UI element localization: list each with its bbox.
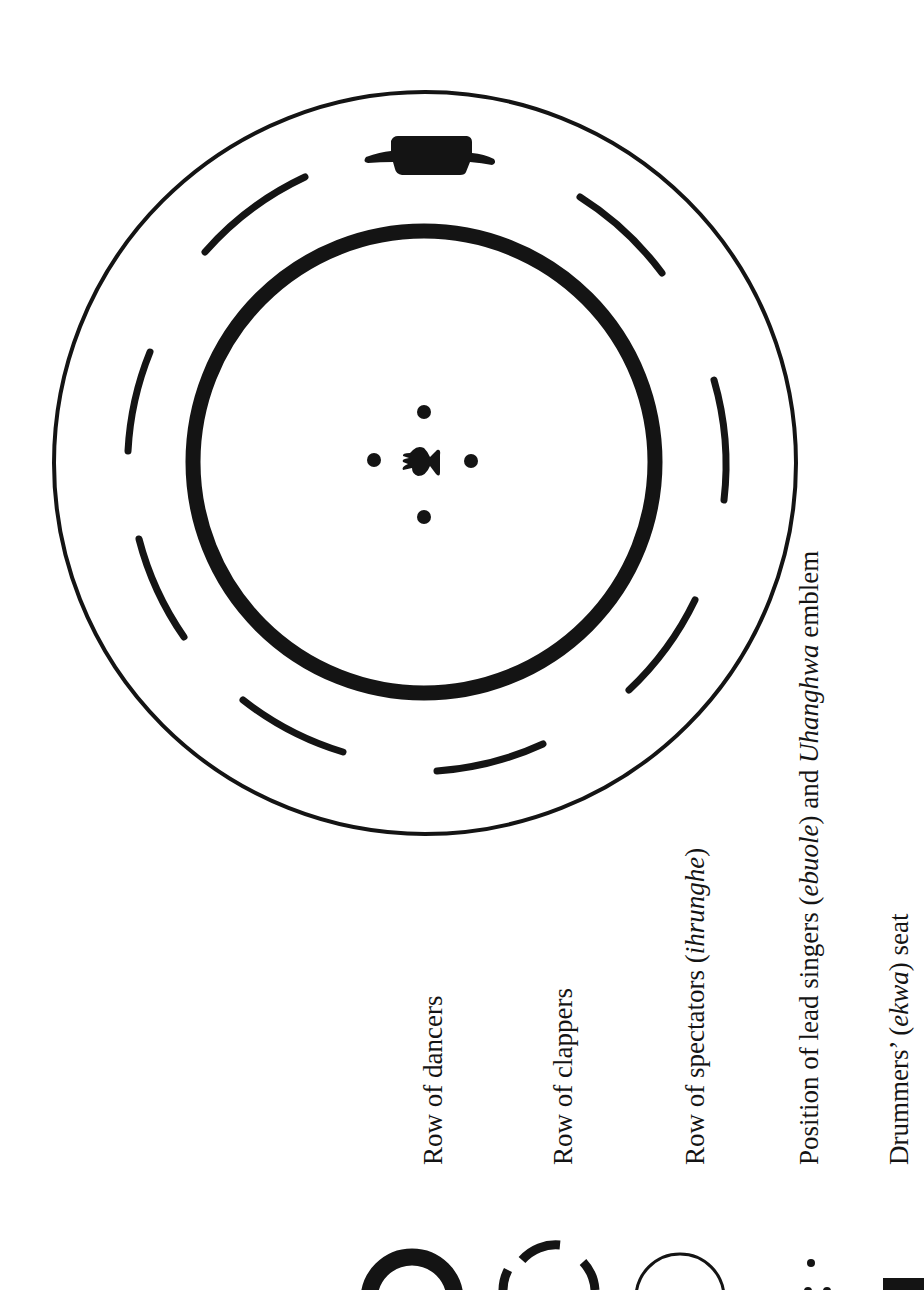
legend-dots-icon (804, 1259, 831, 1290)
legend-label-clappers: Row of clappers (548, 988, 578, 1165)
clapper-arc-top-left (205, 177, 305, 252)
clapper-arc-bottom-right (629, 600, 695, 690)
singer-dot-bottom (417, 510, 431, 524)
label-italic-term: ekwa (884, 971, 914, 1026)
uhanghwa-emblem-icon (403, 447, 441, 476)
clapper-arc-left (128, 352, 150, 451)
legend-label-lead-singers: Position of lead singers (ebuole) and Uh… (794, 551, 824, 1165)
label-text: Row of dancers (418, 996, 448, 1165)
legend-label-dancers: Row of dancers (418, 996, 448, 1165)
legend-seat-block-icon (883, 1278, 924, 1290)
legend-dashed-circle-icon (503, 1245, 595, 1290)
clapper-arc-bottom-left (243, 700, 343, 752)
label-suffix: ) and (794, 763, 824, 824)
drummers-seat (364, 136, 495, 175)
label-italic-term: ihrunghe (680, 857, 710, 955)
label-italic-term: ebuole (794, 825, 824, 897)
label-text: Position of lead singers ( (794, 897, 824, 1165)
lead-singers-emblem (367, 405, 478, 524)
clapper-arc-top-right (580, 197, 662, 273)
legend-thin-circle-icon (636, 1254, 724, 1290)
clapper-arc-bottom (437, 744, 543, 771)
clappers-ring (128, 177, 726, 771)
clapper-arc-lower-left (139, 539, 184, 637)
singer-dot-right (464, 454, 478, 468)
label-italic-term-2: Uhanghwa (794, 645, 824, 764)
label-suffix: ) seat (884, 914, 914, 972)
label-text: Row of clappers (548, 988, 578, 1165)
label-suffix: ) (680, 848, 710, 857)
legend-thick-circle-icon (369, 1257, 455, 1290)
singer-dot-left (367, 453, 381, 467)
arena-diagram (0, 0, 924, 1290)
singer-dot-top (417, 405, 431, 419)
clapper-arc-right (714, 380, 726, 500)
legend-symbols (369, 1245, 924, 1290)
label-text: Row of spectators ( (680, 954, 710, 1165)
label-text: Drummers’ ( (884, 1027, 914, 1165)
label-suffix-2: emblem (794, 551, 824, 645)
legend-label-drummers: Drummers’ (ekwa) seat (884, 914, 914, 1165)
legend-label-spectators: Row of spectators (ihrunghe) (680, 848, 710, 1165)
